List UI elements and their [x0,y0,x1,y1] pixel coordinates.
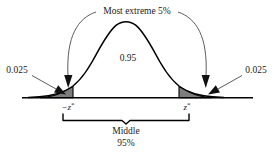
normal-distribution-figure: Most extreme 5% 0.95 0.025 0.025 −z* z* … [0,0,274,152]
right-probability-arrowhead [208,85,220,94]
middle-label: Middle [112,126,139,136]
left-critical-value-star: * [71,101,75,109]
right-annotation-arrowhead [202,75,210,88]
right-annotation-arrow-curve [178,12,206,76]
right-probability-arrow-line [218,76,242,90]
left-annotation-arrow-curve [68,12,96,76]
left-probability-arrowhead [54,85,66,94]
middle-percent-label: 95% [117,138,135,148]
right-critical-value-star: * [187,101,191,109]
distribution-diagram: Most extreme 5% 0.95 0.025 0.025 −z* z* … [0,0,274,152]
right-critical-value-label: z* [182,101,191,112]
left-critical-value-label: −z* [61,101,75,112]
left-annotation-arrowhead [64,75,72,88]
center-probability-label: 0.95 [120,53,137,63]
left-probability-label: 0.025 [6,65,28,75]
left-critical-value-text: −z [61,102,71,112]
left-probability-arrow-line [32,76,56,90]
right-probability-label: 0.025 [245,65,267,75]
middle-range-bracket [63,114,189,125]
most-extreme-label: Most extreme 5% [103,6,171,16]
